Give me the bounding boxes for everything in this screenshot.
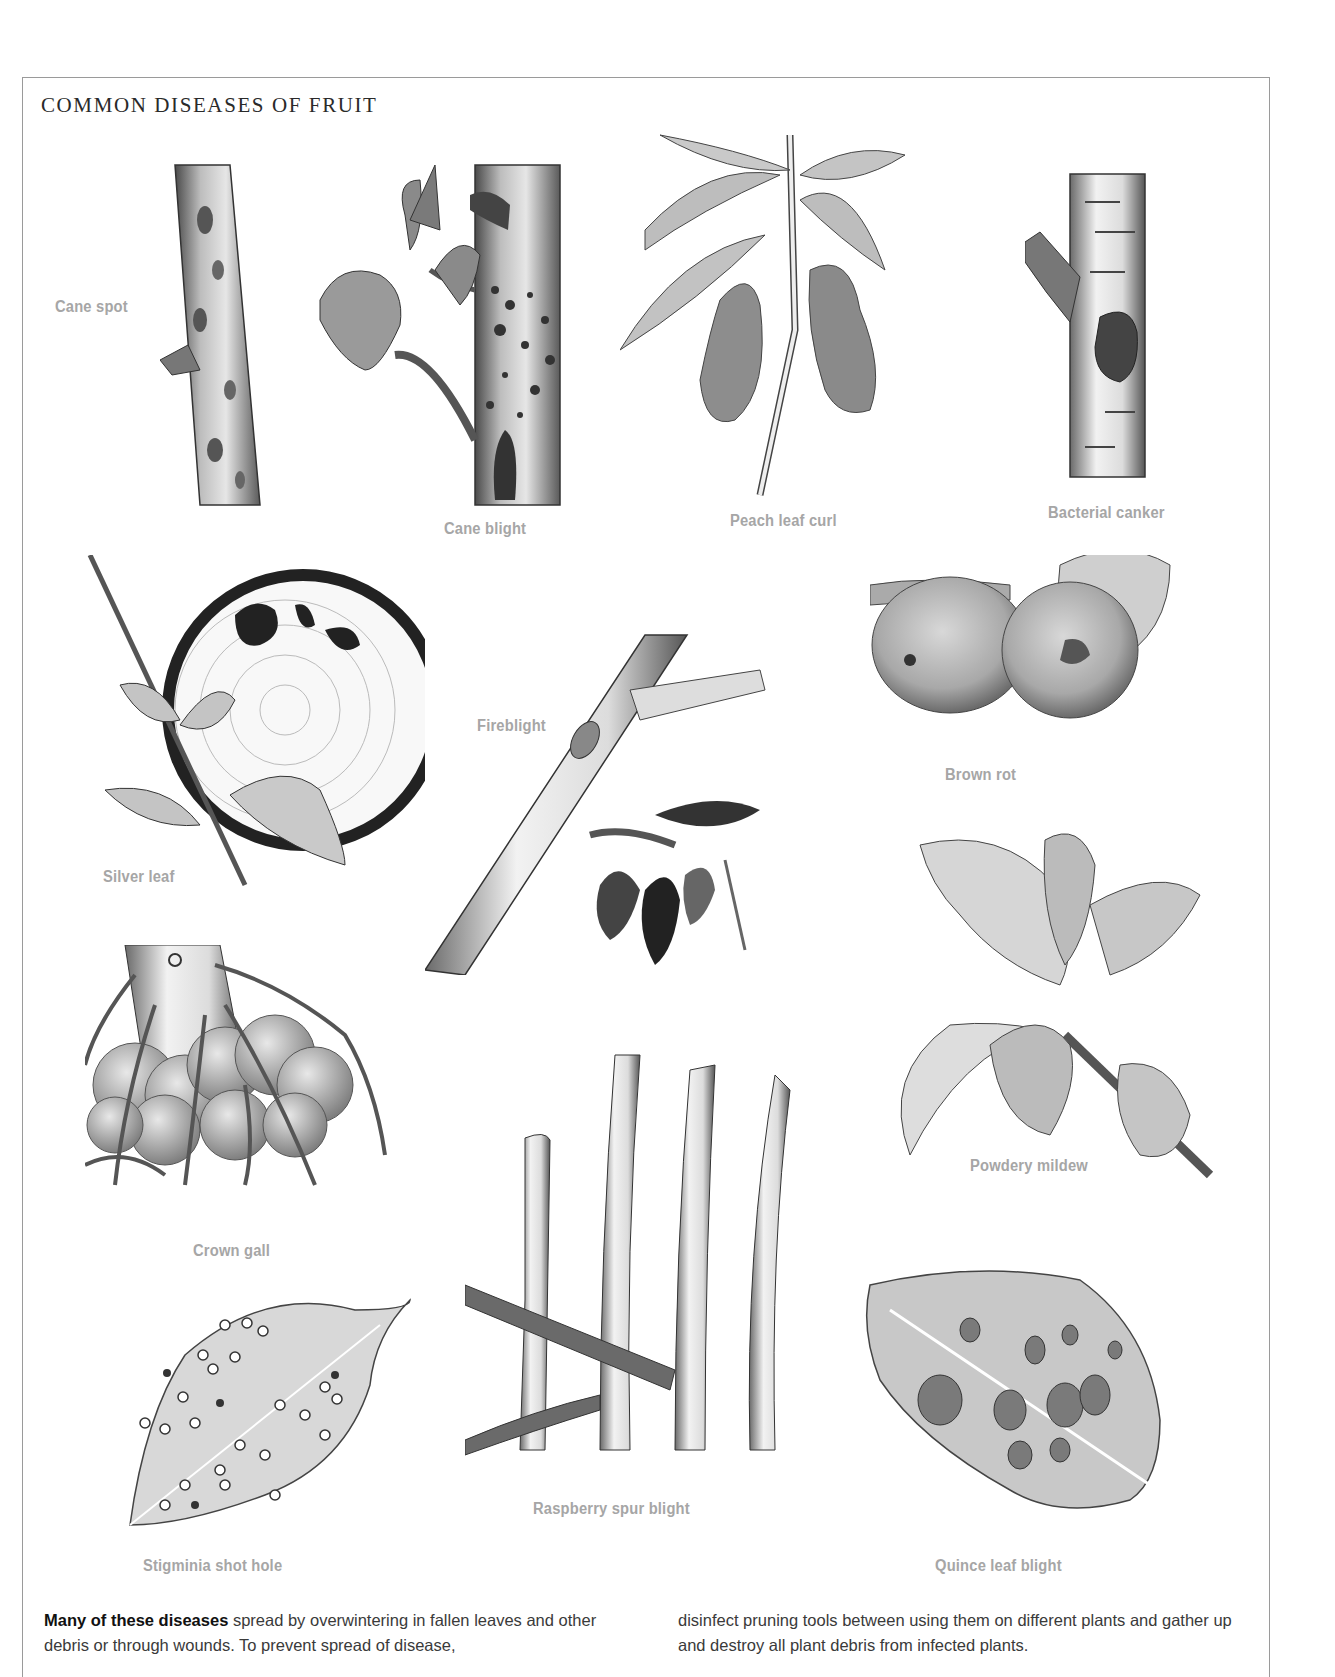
caption-bold-lead: Many of these diseases <box>44 1611 228 1629</box>
label-brown-rot: Brown rot <box>945 766 1016 784</box>
label-bacterial-canker: Bacterial canker <box>1048 504 1165 522</box>
label-stigminia-shot-hole: Stigminia shot hole <box>143 1557 282 1575</box>
label-powdery-mildew: Powdery mildew <box>970 1157 1088 1175</box>
cane-blight-illustration <box>310 160 570 510</box>
label-crown-gall: Crown gall <box>193 1242 270 1260</box>
caption-left: Many of these diseases spread by overwin… <box>44 1608 604 1658</box>
caption-right: disinfect pruning tools between using th… <box>678 1608 1258 1658</box>
peach-leaf-curl-illustration <box>620 130 950 500</box>
label-cane-blight: Cane blight <box>444 520 526 538</box>
bacterial-canker-illustration <box>1025 172 1150 482</box>
label-fireblight: Fireblight <box>477 717 546 735</box>
silver-leaf-illustration <box>85 555 425 895</box>
brown-rot-illustration <box>870 555 1175 745</box>
fireblight-illustration <box>425 630 785 975</box>
stigminia-shot-hole-illustration <box>125 1295 415 1535</box>
page-title: COMMON DISEASES OF FRUIT <box>41 93 378 118</box>
powdery-mildew-illustration <box>880 825 1225 1185</box>
label-quince-leaf-blight: Quince leaf blight <box>935 1557 1062 1575</box>
crown-gall-illustration <box>85 945 395 1190</box>
label-silver-leaf: Silver leaf <box>103 868 175 886</box>
cane-spot-illustration <box>160 160 280 510</box>
raspberry-spur-blight-illustration <box>465 1050 805 1460</box>
quince-leaf-blight-illustration <box>860 1270 1205 1520</box>
label-peach-leaf-curl: Peach leaf curl <box>730 512 837 530</box>
label-cane-spot: Cane spot <box>55 298 128 316</box>
label-raspberry-spur-blight: Raspberry spur blight <box>533 1500 690 1518</box>
